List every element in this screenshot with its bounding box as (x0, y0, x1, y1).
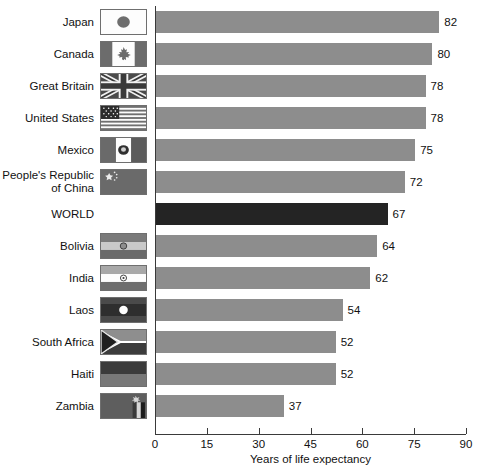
bar (156, 43, 432, 65)
x-axis-tick-label: 0 (152, 438, 158, 450)
flag-china-icon (100, 169, 147, 195)
bar-value-label: 78 (431, 107, 444, 129)
bar (156, 11, 439, 33)
x-axis-tick (259, 428, 260, 434)
chart-row: WORLD67 (0, 198, 483, 230)
x-axis-tick (414, 428, 415, 434)
row-label: Great Britain (0, 70, 94, 102)
flag-mexico-icon (100, 137, 147, 163)
flag-south-africa-icon (100, 329, 147, 355)
flag-japan-icon (100, 9, 147, 35)
chart-row: United States78 (0, 102, 483, 134)
bar (156, 171, 405, 193)
flag-united-states-icon (100, 105, 147, 131)
row-label: Haiti (0, 358, 94, 390)
bar-value-label: 52 (341, 331, 354, 353)
x-axis-tick-label: 90 (460, 438, 473, 450)
row-label: Bolivia (0, 230, 94, 262)
bar-value-label: 78 (431, 75, 444, 97)
x-axis-tick-label: 75 (408, 438, 421, 450)
bar (156, 299, 343, 321)
bar-value-label: 37 (289, 395, 302, 417)
chart-row: Bolivia64 (0, 230, 483, 262)
flag-great-britain-icon (100, 73, 147, 99)
x-axis-tick-label: 30 (252, 438, 265, 450)
row-label: Laos (0, 294, 94, 326)
bar-value-label: 82 (444, 11, 457, 33)
x-axis-tick (311, 428, 312, 434)
row-label: WORLD (0, 198, 94, 230)
x-axis-title: Years of life expectancy (155, 453, 466, 465)
bar-value-label: 52 (341, 363, 354, 385)
bar (156, 331, 336, 353)
x-axis-tick (207, 428, 208, 434)
chart-row: Great Britain78 (0, 70, 483, 102)
bar (156, 75, 426, 97)
row-label: People's Republic of China (0, 166, 94, 198)
chart-row: Japan82 (0, 6, 483, 38)
chart-row: South Africa52 (0, 326, 483, 358)
row-label: Mexico (0, 134, 94, 166)
chart-row: Mexico75 (0, 134, 483, 166)
bar (156, 235, 377, 257)
bar (156, 107, 426, 129)
flag-haiti-icon (100, 361, 147, 387)
row-label: Canada (0, 38, 94, 70)
chart-row: Canada80 (0, 38, 483, 70)
row-label: United States (0, 102, 94, 134)
x-axis-tick-label: 45 (304, 438, 317, 450)
x-axis-tick-label: 60 (356, 438, 369, 450)
bar (156, 139, 415, 161)
row-label: Zambia (0, 390, 94, 422)
bar-value-label: 54 (348, 299, 361, 321)
flag-canada-icon (100, 41, 147, 67)
bar-value-label: 64 (382, 235, 395, 257)
bar (156, 203, 388, 225)
bar (156, 267, 370, 289)
flag-india-icon (100, 265, 147, 291)
chart-row: People's Republic of China72 (0, 166, 483, 198)
row-label: South Africa (0, 326, 94, 358)
chart-row: Haiti52 (0, 358, 483, 390)
life-expectancy-bar-chart: Japan82Canada80Great Britain78United Sta… (0, 0, 483, 470)
x-axis-line (155, 434, 466, 435)
bar-value-label: 62 (375, 267, 388, 289)
bar-value-label: 80 (437, 43, 450, 65)
flag-bolivia-icon (100, 233, 147, 259)
bar-value-label: 67 (393, 203, 406, 225)
x-axis-tick (155, 428, 156, 434)
bar (156, 363, 336, 385)
row-label: India (0, 262, 94, 294)
bar-value-label: 72 (410, 171, 423, 193)
chart-row: Laos54 (0, 294, 483, 326)
bar (156, 395, 284, 417)
flag-zambia-icon (100, 393, 147, 419)
chart-row: India62 (0, 262, 483, 294)
y-axis-line (155, 6, 156, 435)
x-axis-tick-label: 15 (200, 438, 213, 450)
bar-value-label: 75 (420, 139, 433, 161)
x-axis-tick (362, 428, 363, 434)
flag-laos-icon (100, 297, 147, 323)
chart-row: Zambia37 (0, 390, 483, 422)
row-label: Japan (0, 6, 94, 38)
x-axis-tick (466, 428, 467, 434)
